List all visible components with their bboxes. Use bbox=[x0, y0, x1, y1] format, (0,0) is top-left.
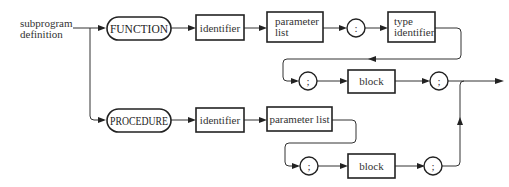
function-semicolon-after-block-node: ; bbox=[430, 72, 448, 90]
arrow-left-icon bbox=[368, 56, 376, 62]
procedure-block-node: block bbox=[348, 154, 395, 178]
arrow-right-icon bbox=[188, 25, 196, 31]
procedure-keyword: PROCEDURE bbox=[110, 115, 168, 127]
procedure-semicolon-after-block-node: ; bbox=[424, 157, 442, 175]
procedure-identifier-label: identifier bbox=[200, 114, 241, 126]
function-identifier-node: identifier bbox=[196, 15, 244, 40]
semicolon-symbol: ; bbox=[307, 160, 310, 172]
semicolon-symbol: ; bbox=[306, 75, 309, 87]
arrow-right-icon bbox=[98, 117, 106, 123]
function-semicolon-before-block-node: ; bbox=[299, 72, 317, 90]
function-keyword: FUNCTION bbox=[110, 23, 169, 35]
arrow-right-icon bbox=[339, 25, 347, 31]
type-identifier-node: type identifier bbox=[388, 12, 435, 42]
arrow-right-icon bbox=[340, 163, 348, 169]
connector-lines bbox=[73, 28, 496, 166]
semicolon-symbol: ; bbox=[431, 160, 434, 172]
arrow-right-icon bbox=[380, 25, 388, 31]
arrow-right-icon bbox=[259, 25, 267, 31]
arrow-right-icon bbox=[422, 78, 430, 84]
arrow-right-icon bbox=[292, 163, 300, 169]
arrow-right-icon bbox=[259, 117, 267, 123]
colon-node: : bbox=[347, 19, 365, 37]
arrowheads bbox=[98, 25, 504, 169]
procedure-block-label: block bbox=[359, 160, 384, 172]
function-block-label: block bbox=[359, 75, 384, 87]
start-label-line2: definition bbox=[20, 28, 63, 40]
type-identifier-line2: identifier bbox=[394, 26, 435, 38]
procedure-identifier-node: identifier bbox=[196, 108, 244, 132]
colon-symbol: : bbox=[354, 22, 357, 34]
function-parameter-list-line2: list bbox=[275, 26, 288, 38]
procedure-keyword-node: PROCEDURE bbox=[107, 109, 171, 132]
function-block-node: block bbox=[348, 70, 395, 93]
arrow-right-icon bbox=[291, 78, 299, 84]
arrow-right-icon bbox=[340, 78, 348, 84]
arrow-up-icon bbox=[457, 117, 463, 125]
syntax-diagram: subprogram definition bbox=[0, 0, 509, 187]
procedure-parameter-list-node: parameter list bbox=[267, 107, 332, 131]
procedure-semicolon-before-block-node: ; bbox=[300, 157, 318, 175]
procedure-parameter-list-label: parameter list bbox=[269, 113, 329, 125]
exit-arrow-icon bbox=[495, 78, 504, 84]
function-keyword-node: FUNCTION bbox=[107, 17, 171, 40]
arrow-right-icon bbox=[98, 25, 106, 31]
arrow-right-icon bbox=[188, 117, 196, 123]
semicolon-symbol: ; bbox=[437, 75, 440, 87]
function-identifier-label: identifier bbox=[200, 22, 241, 34]
function-parameter-list-node: parameter list bbox=[267, 12, 323, 42]
